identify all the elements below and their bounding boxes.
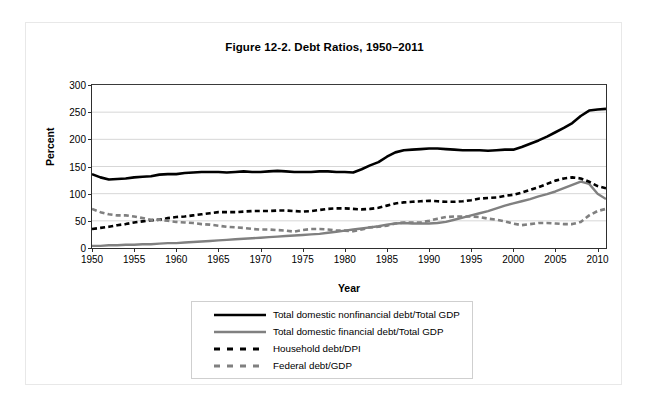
- x-axis-tick-label: 2005: [544, 254, 566, 265]
- y-axis-tick-label: 150: [56, 161, 86, 172]
- x-axis-tick-mark: [387, 248, 388, 252]
- x-axis-tick-label: 1990: [418, 254, 440, 265]
- y-axis-title: Percent: [44, 127, 56, 166]
- chart-plot-svg: [92, 85, 606, 248]
- series-line: [92, 209, 606, 232]
- x-axis-tick-label: 1995: [460, 254, 482, 265]
- y-axis-tick-label: 0: [56, 243, 86, 254]
- y-axis-tick-label: 300: [56, 80, 86, 91]
- legend-item-label: Total domestic nonfinancial debt/Total G…: [273, 310, 460, 320]
- x-axis-tick-mark: [555, 248, 556, 252]
- x-axis-tick-label: 1975: [292, 254, 314, 265]
- x-axis-tick-label: 1950: [81, 254, 103, 265]
- x-axis-tick-label: 1965: [207, 254, 229, 265]
- legend-item: Household debt/DPI: [192, 340, 472, 357]
- x-axis-tick-mark: [429, 248, 430, 252]
- legend-item: Total domestic nonfinancial debt/Total G…: [192, 306, 472, 323]
- x-axis-tick-label: 2000: [502, 254, 524, 265]
- legend-swatch-line: [208, 344, 268, 354]
- legend-item-label: Total domestic financial debt/Total GDP: [273, 327, 443, 337]
- y-axis-tick-mark: [88, 221, 92, 222]
- x-axis-tick-label: 2010: [586, 254, 608, 265]
- chart-legend: Total domestic nonfinancial debt/Total G…: [191, 301, 473, 379]
- y-axis-tick-label: 100: [56, 188, 86, 199]
- y-axis-tick-mark: [88, 85, 92, 86]
- y-axis-tick-label: 200: [56, 134, 86, 145]
- legend-swatch-line: [208, 361, 268, 371]
- legend-swatch-line: [208, 310, 268, 320]
- x-axis-tick-label: 1985: [376, 254, 398, 265]
- legend-item-label: Household debt/DPI: [273, 344, 361, 354]
- series-line: [92, 182, 606, 246]
- y-axis-tick-mark: [88, 167, 92, 168]
- x-axis-tick-mark: [513, 248, 514, 252]
- x-axis-tick-mark: [598, 248, 599, 252]
- x-axis-tick-label: 1970: [249, 254, 271, 265]
- y-axis-tick-mark: [88, 112, 92, 113]
- legend-item: Federal debt/GDP: [192, 357, 472, 374]
- figure-frame: Figure 12-2. Debt Ratios, 1950–2011 Perc…: [25, 22, 622, 385]
- x-axis-tick-mark: [176, 248, 177, 252]
- x-axis-tick-mark: [218, 248, 219, 252]
- legend-item-label: Federal debt/GDP: [273, 361, 352, 371]
- legend-item: Total domestic financial debt/Total GDP: [192, 323, 472, 340]
- series-line: [92, 109, 606, 180]
- legend-swatch-line: [208, 327, 268, 337]
- plot-area: 0501001502002503001950195519601965197019…: [91, 84, 607, 249]
- x-axis-tick-mark: [471, 248, 472, 252]
- y-axis-tick-mark: [88, 194, 92, 195]
- x-axis-tick-mark: [261, 248, 262, 252]
- y-axis-tick-label: 250: [56, 107, 86, 118]
- y-axis-tick-mark: [88, 139, 92, 140]
- x-axis-tick-label: 1960: [165, 254, 187, 265]
- x-axis-tick-mark: [134, 248, 135, 252]
- y-axis-tick-label: 50: [56, 215, 86, 226]
- x-axis-tick-mark: [92, 248, 93, 252]
- x-axis-tick-mark: [303, 248, 304, 252]
- x-axis-tick-label: 1955: [123, 254, 145, 265]
- x-axis-tick-label: 1980: [334, 254, 356, 265]
- x-axis-tick-mark: [345, 248, 346, 252]
- x-axis-title: Year: [91, 282, 607, 294]
- chart-title: Figure 12-2. Debt Ratios, 1950–2011: [26, 41, 623, 53]
